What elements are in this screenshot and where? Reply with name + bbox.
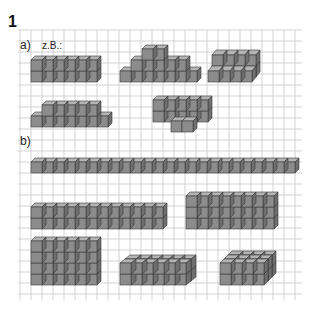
shape-b3-wall-8x3 (186, 192, 278, 229)
part-b-label: b) (20, 134, 31, 148)
part-a-label: a) (20, 38, 31, 52)
shape-b4-wall-6x4 (31, 237, 101, 285)
shape-b6-box-4x3x2 (220, 251, 276, 285)
shape-b1-bar-24 (31, 158, 299, 173)
shape-b5-box-6x2x2 (120, 255, 196, 285)
shape-a3-step (208, 50, 260, 82)
example-label: z.B.: (42, 40, 62, 51)
shape-b2-wall-12x2 (31, 203, 167, 229)
shape-a1-row-6x2 (31, 56, 101, 82)
shape-a4-row-with-ends (31, 101, 112, 127)
shape-a5-front-cubes (171, 117, 197, 132)
shape-a2-pyramid (120, 45, 201, 82)
